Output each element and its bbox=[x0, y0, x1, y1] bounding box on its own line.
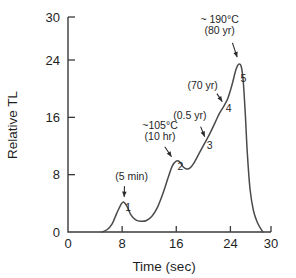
y-tick-label: 24 bbox=[46, 53, 60, 68]
peak2-annotation-arrow-head bbox=[167, 151, 172, 157]
x-tick-label: 30 bbox=[264, 236, 278, 251]
y-axis-tick-labels: 08162430 bbox=[46, 10, 60, 240]
peak-label-1: 1 bbox=[125, 201, 131, 213]
peak3-annotation-text-line: (0.5 yr) bbox=[173, 109, 206, 121]
x-tick-label: 16 bbox=[169, 236, 183, 251]
x-axis-title: Time (sec) bbox=[132, 259, 195, 274]
x-tick-label: 0 bbox=[64, 236, 71, 251]
peak-label-4: 4 bbox=[226, 102, 232, 114]
y-axis-title: Relative TL bbox=[5, 90, 20, 159]
x-tick-label: 8 bbox=[119, 236, 126, 251]
x-tick-label: 24 bbox=[223, 236, 237, 251]
peak-label-5: 5 bbox=[241, 72, 247, 84]
peak5-annotation: ~ 190°C(80 yr) bbox=[200, 13, 239, 57]
peak-label-3: 3 bbox=[207, 139, 213, 151]
thermoluminescence-glow-curve-figure: 08162430 08162430 12345 (5 min)~105°C(10… bbox=[0, 0, 296, 278]
y-tick-label: 30 bbox=[46, 10, 60, 25]
y-tick-label: 8 bbox=[53, 167, 60, 182]
peak5-annotation-arrow-head bbox=[233, 51, 237, 57]
peak5-annotation-text-line: ~ 190°C bbox=[200, 13, 239, 25]
peak4-annotation-arrow-head bbox=[217, 96, 222, 102]
x-axis-tick-labels: 08162430 bbox=[64, 236, 278, 251]
peak-label-2: 2 bbox=[178, 160, 184, 172]
chart-svg: 08162430 08162430 12345 (5 min)~105°C(10… bbox=[0, 0, 296, 278]
peak1-annotation: (5 min) bbox=[115, 170, 148, 196]
y-tick-label: 16 bbox=[46, 110, 60, 125]
peak4-annotation: (70 yr) bbox=[187, 79, 222, 101]
peak2-annotation: ~105°C(10 hr) bbox=[142, 119, 178, 157]
peak-number-labels: 12345 bbox=[125, 72, 246, 214]
peak4-annotation-text-line: (70 yr) bbox=[187, 79, 217, 91]
peak1-annotation-arrow-head bbox=[122, 192, 127, 197]
peak1-annotation-text-line: (5 min) bbox=[115, 170, 148, 182]
peak5-annotation-text-line: (80 yr) bbox=[204, 24, 234, 36]
peak3-annotation: (0.5 yr) bbox=[173, 109, 206, 137]
y-tick-label: 0 bbox=[53, 225, 60, 240]
peak2-annotation-text-line: (10 hr) bbox=[145, 130, 176, 142]
